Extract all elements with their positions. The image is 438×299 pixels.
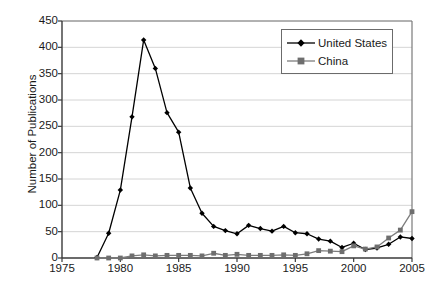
- diamond-marker-icon: [286, 36, 316, 50]
- legend-label-china: China: [316, 55, 348, 67]
- legend-item-china: China: [282, 52, 392, 70]
- legend-item-united-states: United States: [282, 34, 392, 52]
- publications-line-chart: Number of Publications 05010015020025030…: [0, 0, 438, 299]
- chart-legend: United States China: [281, 29, 393, 74]
- square-marker-icon: [286, 54, 316, 68]
- legend-label-united-states: United States: [316, 37, 387, 49]
